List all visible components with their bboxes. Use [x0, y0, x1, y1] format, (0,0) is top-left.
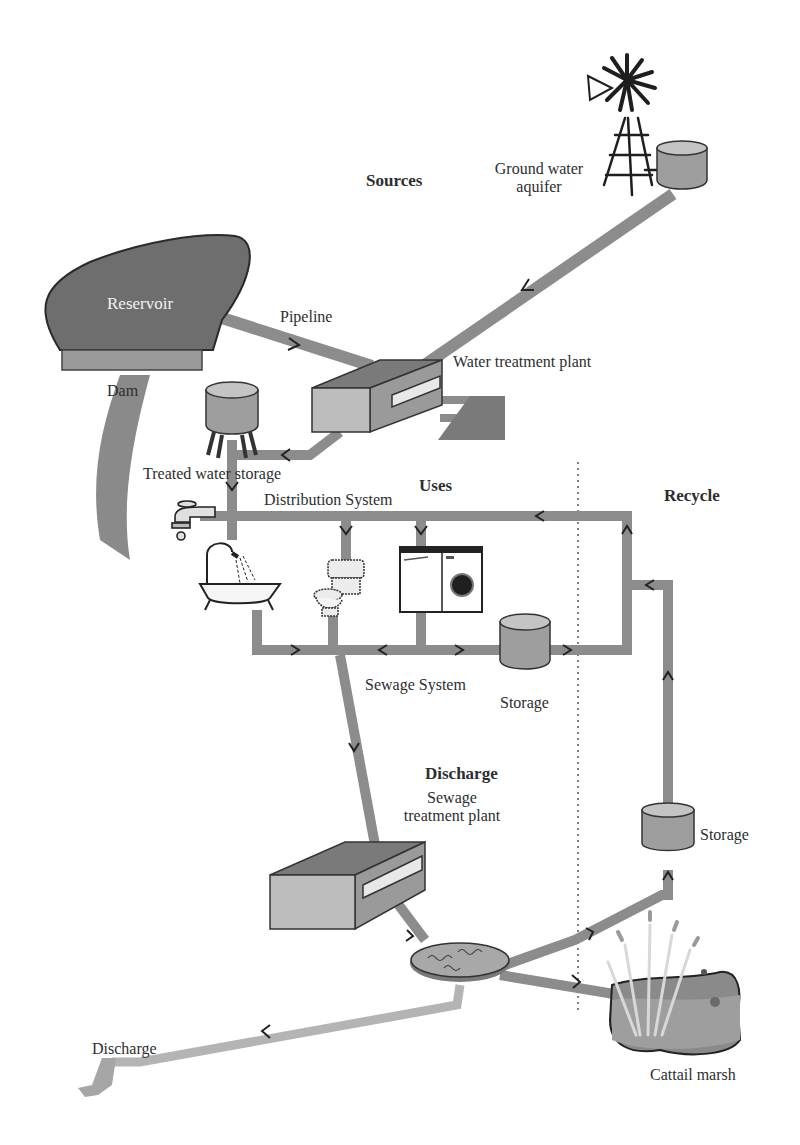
label-sewage-system: Sewage System — [365, 676, 466, 694]
aquifer-tank-icon — [657, 141, 707, 189]
water-treatment-plant-icon — [312, 360, 505, 440]
section-discharge: Discharge — [425, 765, 498, 783]
discharge-outlet-icon — [78, 1058, 116, 1097]
label-treated-water-storage: Treated water storage — [143, 465, 281, 483]
label-distribution-system: Distribution System — [264, 491, 392, 509]
label-ground-water-line2: aquifer — [474, 178, 604, 196]
reservoir-icon — [45, 235, 250, 350]
label-discharge-outlet: Discharge — [92, 1040, 157, 1058]
cattail-marsh-icon — [608, 912, 740, 1054]
label-ground-water-line1: Ground water — [474, 160, 604, 178]
storage-tank-icon — [500, 614, 550, 669]
label-ground-water-aquifer: Ground water aquifer — [474, 160, 604, 196]
label-storage-uses: Storage — [500, 694, 549, 712]
settling-pond-icon — [410, 943, 510, 982]
label-cattail-marsh: Cattail marsh — [650, 1066, 736, 1084]
section-uses: Uses — [419, 477, 452, 495]
washing-machine-icon — [400, 547, 482, 612]
section-sources: Sources — [366, 172, 422, 190]
bathtub-icon — [200, 543, 280, 610]
discharge-pipe — [112, 985, 460, 1062]
label-dam: Dam — [107, 382, 138, 400]
label-water-treatment-plant: Water treatment plant — [453, 353, 591, 371]
label-sewage-treatment-line2: treatment plant — [382, 807, 522, 825]
label-storage-recycle: Storage — [700, 826, 749, 844]
label-sewage-treatment-line1: Sewage — [382, 789, 522, 807]
label-reservoir: Reservoir — [107, 295, 173, 313]
recycle-storage-tank-icon — [642, 803, 694, 851]
label-pipeline: Pipeline — [280, 308, 332, 326]
toilet-icon — [314, 560, 364, 616]
section-recycle: Recycle — [664, 487, 720, 505]
label-sewage-treatment-plant: Sewage treatment plant — [382, 789, 522, 825]
dam-outflow — [96, 375, 150, 560]
dam-icon — [62, 350, 202, 370]
